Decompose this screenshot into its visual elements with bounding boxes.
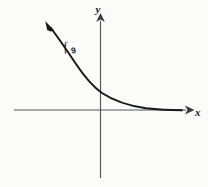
- curve-arrowhead-icon: [45, 21, 54, 32]
- x-axis-label: x: [194, 106, 201, 118]
- coordinate-plane-svg: y x f 9: [0, 0, 208, 187]
- x-axis-arrowhead-icon: [185, 106, 195, 115]
- y-axis-label: y: [94, 3, 101, 15]
- exponential-curve: [51, 28, 183, 111]
- exponential-decay-figure: y x f 9: [0, 0, 208, 187]
- curve-label-subscript: 9: [70, 45, 77, 56]
